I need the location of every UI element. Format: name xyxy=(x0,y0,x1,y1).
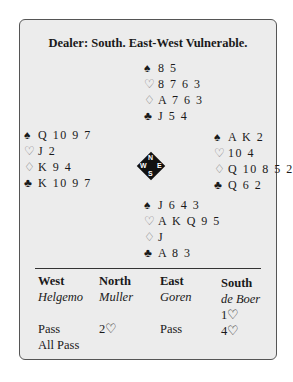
club-icon: ♣ xyxy=(24,175,38,191)
heart-icon: ♡ xyxy=(144,76,158,92)
heart-icon: ♡ xyxy=(144,213,158,229)
hand-east: ♠A K 2 ♡10 4 ♢Q 10 8 5 2 ♣Q 6 2 xyxy=(214,129,293,193)
deal-diagram: Dealer: South. East-West Vulnerable. ♠8 … xyxy=(19,19,277,360)
auction-column-west: West Helgemo Pass All Pass xyxy=(38,273,98,353)
hand-west: ♠Q 10 9 7 ♡J 2 ♢K 9 4 ♣K 10 9 7 xyxy=(24,127,92,191)
diamond-icon: ♢ xyxy=(214,161,228,177)
club-icon: ♣ xyxy=(144,245,158,261)
deal-title: Dealer: South. East-West Vulnerable. xyxy=(20,36,276,51)
auction-column-south: South de Boer 1♡ 4♡ xyxy=(221,275,281,339)
hand-north: ♠8 5 ♡8 7 6 3 ♢A 7 6 3 ♣J 5 4 xyxy=(144,60,204,124)
divider xyxy=(35,268,261,269)
club-icon: ♣ xyxy=(144,108,158,124)
diamond-icon: ♢ xyxy=(144,229,158,245)
heart-icon: ♡ xyxy=(24,143,38,159)
heart-icon: ♡ xyxy=(214,145,228,161)
auction-column-north: North Muller 2♡ xyxy=(99,273,159,337)
spade-icon: ♠ xyxy=(214,129,228,145)
compass-icon: N W E S xyxy=(137,152,165,180)
auction-column-east: East Goren Pass xyxy=(160,273,220,337)
spade-icon: ♠ xyxy=(144,197,158,213)
hand-south: ♠J 6 4 3 ♡A K Q 9 5 ♢J ♣A 8 3 xyxy=(144,197,221,261)
diamond-icon: ♢ xyxy=(144,92,158,108)
spade-icon: ♠ xyxy=(24,127,38,143)
diamond-icon: ♢ xyxy=(24,159,38,175)
spade-icon: ♠ xyxy=(144,60,158,76)
club-icon: ♣ xyxy=(214,177,228,193)
